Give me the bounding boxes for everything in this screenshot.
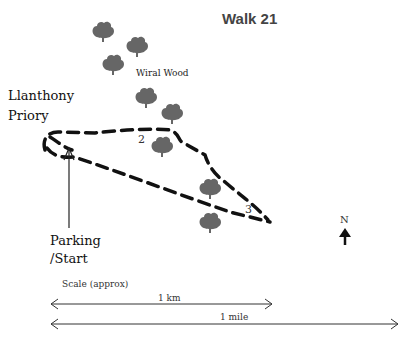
route-map xyxy=(0,0,418,350)
priory-label-line2: Priory xyxy=(8,106,74,126)
tree-icon xyxy=(93,22,114,42)
parking-label-line1: Parking xyxy=(50,232,101,250)
tree-icon xyxy=(162,104,183,124)
parking-label-line2: /Start xyxy=(50,250,101,268)
parking-start-label: Parking /Start xyxy=(50,232,101,268)
tree-icon xyxy=(103,55,124,75)
waypoint-3: 3 xyxy=(245,203,252,216)
scale-mile-label: 1 mile xyxy=(220,312,248,322)
wiral-wood-label: Wiral Wood xyxy=(136,68,189,78)
tree-icon xyxy=(200,213,221,233)
scale-label: Scale (approx) xyxy=(62,279,128,289)
north-arrow-icon xyxy=(339,228,351,245)
tree-icon xyxy=(136,88,157,108)
scale-km-label: 1 km xyxy=(158,293,181,303)
north-label: N xyxy=(340,214,349,225)
tree-icon xyxy=(127,37,148,57)
parking-arrow xyxy=(64,148,74,228)
priory-label-line1: Llanthony xyxy=(8,86,74,106)
tree-icon xyxy=(200,179,221,199)
tree-icon xyxy=(152,137,173,157)
waypoint-2: 2 xyxy=(138,133,145,146)
llanthony-priory-label: Llanthony Priory xyxy=(8,86,74,126)
